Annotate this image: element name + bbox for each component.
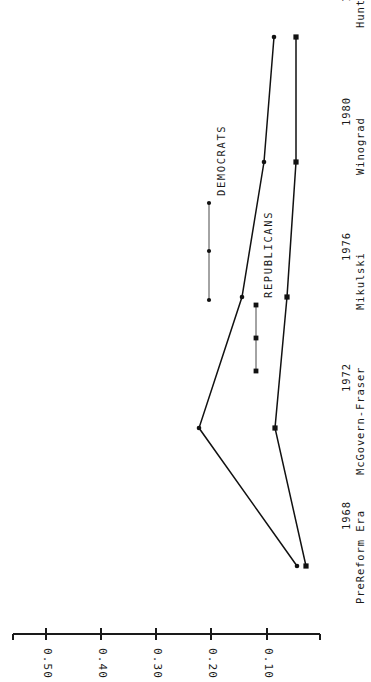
- series-democrats-point-1984: [272, 35, 277, 40]
- series-republicans: [272, 34, 308, 568]
- value-axis: [13, 628, 320, 640]
- series-democrats-point-1976: [240, 295, 245, 300]
- series-republicans-point-1972: [272, 425, 277, 430]
- series-democrats-line: [199, 37, 297, 566]
- series-democrats: [197, 35, 300, 569]
- legend-democrats-marker-1: [207, 201, 211, 205]
- category-label-year-1972: 1972: [340, 363, 352, 392]
- axis-tick-label-4: 0.10: [262, 648, 275, 679]
- category-label-name-1972: McGovern-Fraser: [354, 367, 366, 475]
- series-republicans-point-1976: [284, 294, 289, 299]
- series-democrats-point-1972: [197, 426, 202, 431]
- category-label-name-1968: PreReform Era: [354, 510, 366, 604]
- legend-democrats-marker-2: [207, 249, 211, 253]
- legend-democrats-sample: [207, 201, 211, 302]
- axis-tick-label-3: 0.20: [206, 648, 219, 679]
- axis-tick-label-0: 0.50: [41, 648, 54, 679]
- series-republicans-point-1984: [293, 34, 298, 39]
- category-label-year-1976: 1976: [340, 232, 352, 261]
- series-republicans-point-1968: [303, 563, 308, 568]
- legend-label-democrats: DEMOCRATS: [215, 125, 227, 196]
- category-label-name-1980: Winograd: [354, 117, 366, 175]
- axis-tick-label-2: 0.30: [151, 648, 164, 679]
- legend-republicans-marker-2: [254, 336, 259, 341]
- axis-tick-label-1: 0.40: [96, 648, 109, 679]
- category-label-year-1984: 1984: [340, 0, 352, 2]
- legend-republicans-marker-3: [254, 369, 259, 374]
- series-republicans-point-1980: [293, 159, 298, 164]
- series-democrats-point-1980: [262, 160, 267, 165]
- legend-republicans-marker-1: [254, 303, 259, 308]
- category-label-name-1984: Hunt: [354, 0, 366, 28]
- legend-label-republicans: REPUBLICANS: [262, 211, 274, 298]
- category-label-year-1968: 1968: [340, 501, 352, 530]
- legend-republicans-sample: [254, 303, 259, 374]
- chart-plot-area: [0, 0, 371, 682]
- legend-democrats-marker-3: [207, 298, 211, 302]
- category-label-year-1980: 1980: [340, 97, 352, 126]
- category-label-name-1976: Mikulski: [354, 252, 366, 310]
- series-democrats-point-1968: [295, 564, 300, 569]
- series-republicans-line: [275, 37, 306, 566]
- chart-container: 0.50 0.40 0.30 0.20 0.10 1968 PreReform …: [0, 0, 371, 682]
